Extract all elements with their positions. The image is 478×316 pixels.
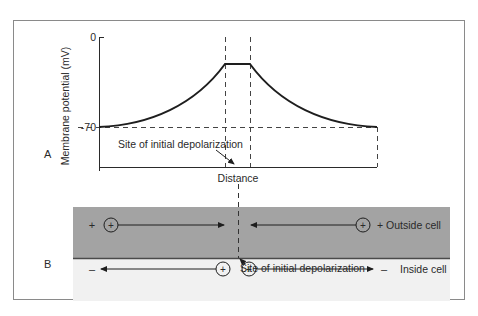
inside-left-minus-sign: – bbox=[89, 263, 96, 275]
y-tick-label-0: 0 bbox=[90, 31, 96, 43]
outside-left-plus-sign: + bbox=[89, 219, 95, 231]
figure-canvas: A Membrane potential (mV) 0 -70 Site of … bbox=[0, 0, 478, 316]
outside-cell-band bbox=[73, 207, 450, 258]
svg-text:+: + bbox=[220, 264, 226, 275]
x-axis-label: Distance bbox=[218, 172, 259, 184]
inside-right-minus-sign: – bbox=[381, 263, 388, 275]
panel-a-annotation: Site of initial depolarization bbox=[118, 138, 243, 150]
panel-a-label: A bbox=[44, 148, 52, 160]
svg-text:+: + bbox=[108, 220, 114, 231]
inside-cell-label: Inside cell bbox=[400, 263, 447, 275]
panel-b-annotation: Site of initial depolarization bbox=[240, 262, 365, 274]
y-axis-label: Membrane potential (mV) bbox=[59, 47, 71, 165]
svg-text:+: + bbox=[360, 220, 366, 231]
svg-text:+: + bbox=[246, 264, 252, 275]
outside-cell-label: + Outside cell bbox=[377, 219, 441, 231]
panel-b-label: B bbox=[44, 258, 51, 270]
